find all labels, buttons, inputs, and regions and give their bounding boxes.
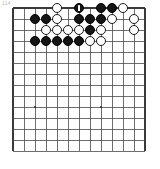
last-move-marker <box>78 5 79 11</box>
figure-caption-mark: 114 <box>2 0 11 6</box>
go-board[interactable] <box>12 7 146 152</box>
go-board-figure: 114 <box>0 0 160 169</box>
